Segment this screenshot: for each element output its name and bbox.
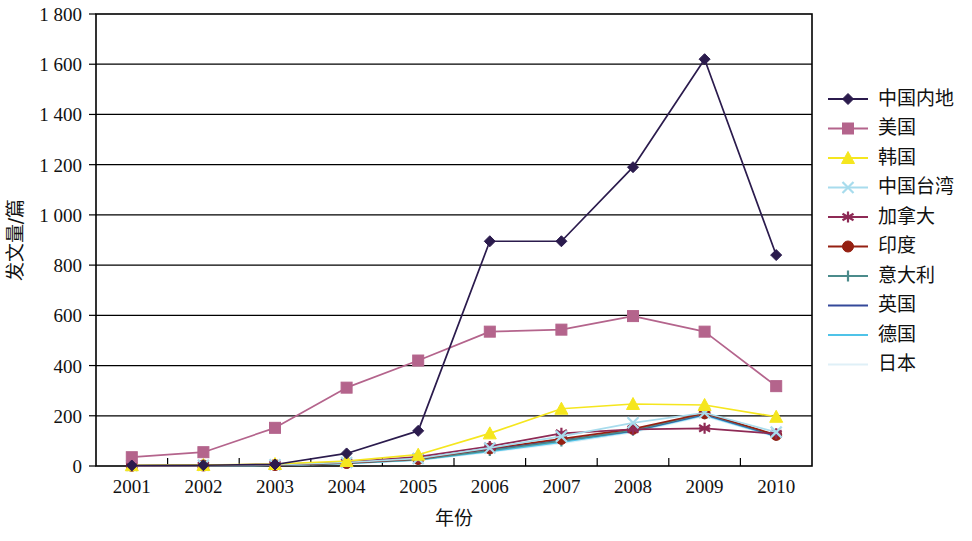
data-point-marker	[483, 427, 496, 439]
x-axis-tick-label: 2005	[399, 476, 437, 497]
data-point-marker	[699, 54, 710, 65]
data-point-marker	[843, 212, 854, 223]
x-axis-tick-label: 2010	[757, 476, 795, 497]
y-axis-title: 发文量/篇	[4, 199, 26, 281]
y-axis-tick-labels: 02004006008001 0001 2001 4001 6001 800	[39, 4, 82, 477]
x-axis-tick-label: 2006	[471, 476, 509, 497]
data-point-marker	[771, 250, 782, 261]
y-axis-ticks	[89, 14, 96, 466]
plot-gridlines	[96, 64, 812, 416]
data-point-marker	[484, 236, 495, 247]
x-axis-tick-label: 2004	[328, 476, 367, 497]
y-axis-tick-label: 800	[54, 255, 83, 276]
x-axis-tick-label: 2009	[686, 476, 724, 497]
x-axis-tick-label: 2003	[256, 476, 294, 497]
legend-label: 中国内地	[878, 87, 954, 109]
y-axis-tick-label: 1 000	[39, 205, 82, 226]
legend-label: 加拿大	[878, 205, 935, 227]
data-series-group	[125, 54, 782, 472]
legend-item-8[interactable]: 英国	[828, 293, 916, 315]
legend-item-5[interactable]: 加拿大	[828, 205, 935, 227]
data-point-marker	[628, 311, 639, 322]
y-axis-tick-label: 1 600	[39, 54, 82, 75]
data-point-marker	[699, 423, 710, 434]
data-point-marker	[699, 326, 710, 337]
legend-label: 中国台湾	[878, 175, 954, 197]
data-point-marker	[413, 355, 424, 366]
y-axis-tick-label: 600	[54, 305, 83, 326]
legend-item-1[interactable]: 中国内地	[828, 87, 954, 109]
legend-label: 日本	[878, 352, 916, 374]
data-series	[126, 54, 781, 471]
legend-item-7[interactable]: 意大利	[828, 264, 935, 286]
legend-item-6[interactable]: 印度	[828, 234, 916, 256]
legend-label: 印度	[878, 234, 916, 256]
x-axis-tick-label: 2002	[184, 476, 222, 497]
legend-item-3[interactable]: 韩国	[828, 146, 916, 168]
data-point-marker	[198, 447, 209, 458]
legend-item-2[interactable]: 美国	[828, 116, 916, 138]
legend-item-10[interactable]: 日本	[828, 352, 916, 374]
data-point-marker	[270, 422, 281, 433]
y-axis-tick-label: 1 200	[39, 155, 82, 176]
data-point-marker	[413, 425, 424, 436]
y-axis-tick-label: 0	[73, 456, 83, 477]
data-point-marker	[341, 382, 352, 393]
legend-label: 美国	[878, 116, 916, 138]
x-axis-title: 年份	[435, 507, 473, 529]
legend: 中国内地美国韩国中国台湾加拿大印度意大利英国德国日本	[828, 87, 954, 375]
chart-container: 02004006008001 0001 2001 4001 6001 800 2…	[0, 0, 972, 541]
legend-label: 德国	[878, 323, 916, 345]
x-axis-tick-label: 2007	[542, 476, 580, 497]
y-axis-tick-label: 1 800	[39, 4, 82, 25]
legend-label: 英国	[878, 293, 916, 315]
y-axis-tick-label: 1 400	[39, 104, 82, 125]
y-axis-tick-label: 400	[54, 356, 83, 377]
y-axis-tick-label: 200	[54, 406, 83, 427]
data-series	[126, 311, 781, 463]
x-axis-tick-label: 2001	[113, 476, 151, 497]
data-point-marker	[556, 324, 567, 335]
x-axis-tick-label: 2008	[614, 476, 652, 497]
legend-item-9[interactable]: 德国	[828, 323, 916, 345]
data-point-marker	[843, 123, 854, 134]
data-point-marker	[843, 271, 854, 282]
data-point-marker	[843, 94, 854, 105]
legend-label: 意大利	[878, 264, 935, 286]
data-point-marker	[484, 326, 495, 337]
legend-item-4[interactable]: 中国台湾	[828, 175, 954, 197]
line-chart: 02004006008001 0001 2001 4001 6001 800 2…	[0, 0, 972, 541]
x-axis-tick-labels: 2001200220032004200520062007200820092010	[113, 476, 795, 497]
data-point-marker	[843, 241, 854, 252]
data-point-marker	[771, 381, 782, 392]
legend-label: 韩国	[878, 146, 916, 168]
